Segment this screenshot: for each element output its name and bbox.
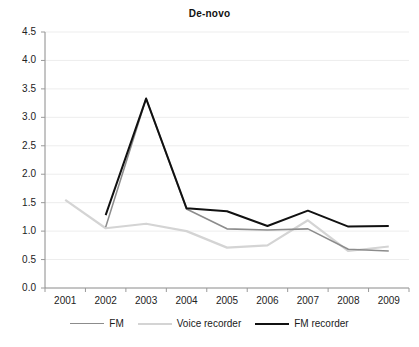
- x-axis-ticks: [45, 288, 409, 292]
- series-line-voice-recorder: [65, 200, 389, 251]
- x-tick-label: 2002: [86, 296, 126, 306]
- legend-label: FM recorder: [294, 318, 348, 329]
- legend-item[interactable]: FM recorder: [255, 318, 348, 329]
- y-tick-label: 1.5: [10, 198, 36, 208]
- y-tick-label: 3.0: [10, 112, 36, 122]
- y-tick-label: 2.5: [10, 141, 36, 151]
- series-line-fm: [106, 99, 389, 251]
- chart-container: De-novo 0.00.51.01.52.02.53.03.54.04.5 2…: [0, 0, 419, 347]
- x-tick-label: 2007: [288, 296, 328, 306]
- y-tick-label: 1.0: [10, 226, 36, 236]
- y-tick-label: 0.5: [10, 255, 36, 265]
- y-tick-label: 4.5: [10, 27, 36, 37]
- legend-label: Voice recorder: [177, 318, 241, 329]
- x-tick-label: 2005: [207, 296, 247, 306]
- legend-line-swatch: [255, 323, 289, 325]
- legend-item[interactable]: FM: [70, 318, 123, 329]
- y-tick-label: 3.5: [10, 84, 36, 94]
- y-axis-ticks: [41, 32, 45, 288]
- x-tick-label: 2003: [126, 296, 166, 306]
- legend-line-swatch: [70, 323, 104, 324]
- x-tick-label: 2009: [369, 296, 409, 306]
- chart-legend: FMVoice recorderFM recorder: [0, 318, 419, 329]
- x-tick-label: 2004: [167, 296, 207, 306]
- legend-label: FM: [109, 318, 123, 329]
- legend-line-swatch: [138, 323, 172, 325]
- x-tick-label: 2008: [328, 296, 368, 306]
- legend-item[interactable]: Voice recorder: [138, 318, 241, 329]
- y-tick-label: 4.0: [10, 55, 36, 65]
- gridlines: [45, 32, 409, 260]
- y-tick-label: 2.0: [10, 169, 36, 179]
- x-tick-label: 2001: [45, 296, 85, 306]
- x-tick-label: 2006: [247, 296, 287, 306]
- series-lines: [65, 99, 389, 251]
- y-tick-label: 0.0: [10, 283, 36, 293]
